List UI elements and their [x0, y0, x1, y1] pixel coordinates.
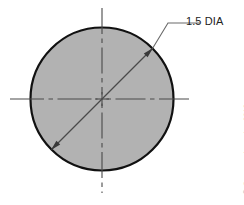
dimension-label: 1.5 DIA [186, 15, 223, 27]
copyright-notice: © Cengage Learning 2013 [242, 104, 244, 194]
drawing-figure [0, 0, 244, 205]
technical-drawing-canvas: 1.5 DIA © Cengage Learning 2013 [0, 0, 244, 205]
